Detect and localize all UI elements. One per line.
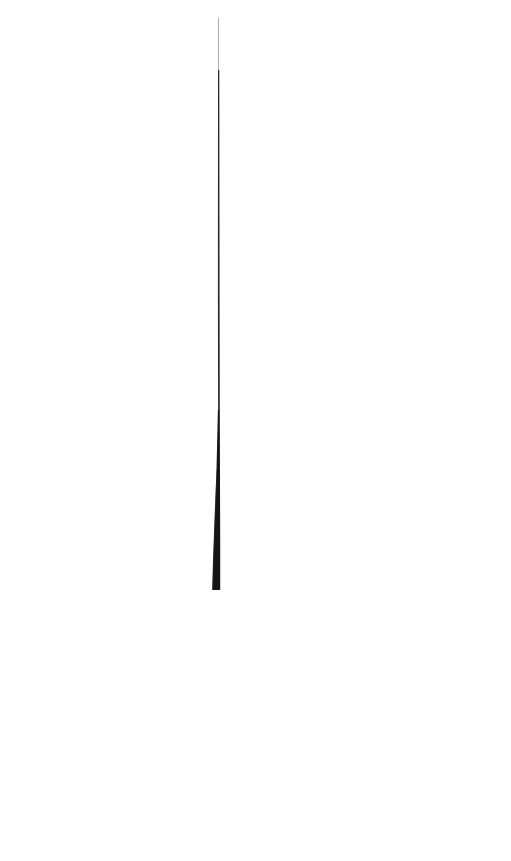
white-canvas [0,0,511,861]
stroke-thin-section [218,70,220,410]
ink-stroke-graphic [0,0,511,861]
